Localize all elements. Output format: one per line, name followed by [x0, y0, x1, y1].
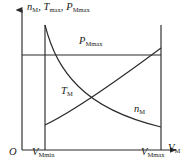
figure-container: nM, Tmax, PMmax VM O VMmin VMmax PMmax T… — [0, 0, 192, 165]
x-axis-title: VM — [168, 143, 180, 154]
plot-canvas — [0, 0, 192, 165]
curve-label-n-m: nM — [134, 104, 145, 115]
origin-label: O — [9, 147, 17, 158]
x-tick-label-v-mmin: VMmin — [32, 147, 54, 158]
curve-label-p-mmax: PMmax — [79, 36, 103, 47]
x-tick-label-v-mmax: VMmax — [141, 147, 165, 158]
y-axis-title: nM, Tmax, PMmax — [27, 2, 90, 13]
y-axis-title-part-pmmax: PMmax — [66, 1, 90, 12]
y-axis-title-part-tmax: Tmax — [44, 1, 61, 12]
curve-label-t-m: TM — [61, 86, 73, 97]
y-axis-title-part-nm: nM — [27, 1, 38, 12]
